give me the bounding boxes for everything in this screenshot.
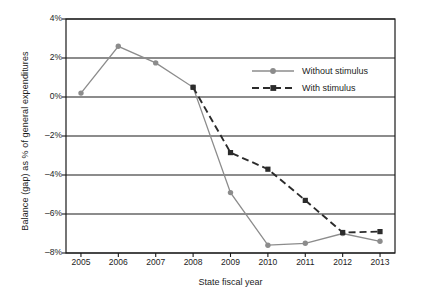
data-point-1 [377,229,382,234]
data-point-1 [303,198,308,203]
legend-marker-1 [270,85,276,91]
legend-label-1: With stimulus [302,83,356,93]
chart-legend: Without stimulusWith stimulus [252,66,369,93]
plot-area: Without stimulusWith stimulus [0,0,430,298]
series-line-1 [193,87,380,232]
data-point-0 [265,243,270,248]
legend-label-0: Without stimulus [302,66,369,76]
legend-marker-0 [270,68,276,74]
data-point-1 [265,167,270,172]
data-point-1 [340,230,345,235]
chart-container: Balance (gap) as % of general expenditur… [0,0,430,298]
data-point-0 [78,90,83,95]
data-point-0 [153,60,158,65]
data-point-0 [377,239,382,244]
data-point-0 [228,190,233,195]
data-point-0 [303,241,308,246]
data-point-1 [228,150,233,155]
data-point-0 [116,44,121,49]
data-point-1 [191,85,196,90]
